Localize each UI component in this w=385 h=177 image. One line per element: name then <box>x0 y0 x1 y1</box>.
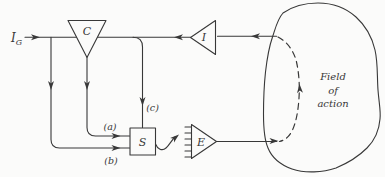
selector-label: S <box>139 136 147 149</box>
path-c-label: (c) <box>146 102 159 113</box>
selector-to-effector-wavy-line <box>156 137 176 150</box>
comparator-label: C <box>83 25 92 38</box>
field-label-line1: Field <box>319 71 346 82</box>
arrowheads <box>31 33 303 151</box>
field-of-action-blob <box>264 3 381 172</box>
path-b-label: (b) <box>104 155 118 166</box>
effector-input-comb <box>185 127 192 157</box>
goal-input-label: IG <box>10 31 23 47</box>
effector-label: E <box>196 136 205 149</box>
cybernetic-feedback-diagram: IG C I S E (a) (b) (c) Field of action <box>0 0 385 177</box>
field-label-line3: action <box>317 98 348 109</box>
branch-b-line <box>51 37 130 148</box>
path-a-label: (a) <box>103 121 116 132</box>
indicator-label: I <box>201 31 207 44</box>
branch-c-line <box>133 37 143 127</box>
diagram-canvas: IG C I S E (a) (b) (c) Field of action <box>0 0 385 177</box>
